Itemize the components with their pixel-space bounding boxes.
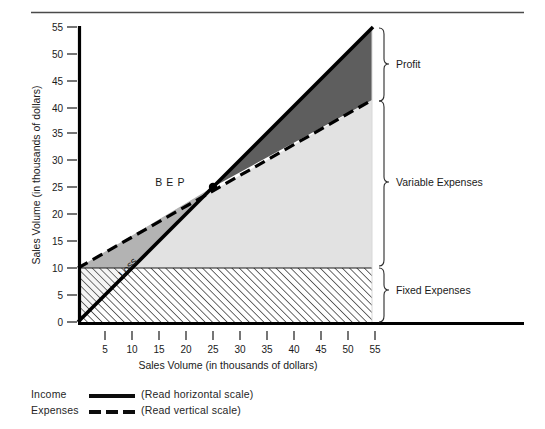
y-tick-label: 10 [52, 263, 64, 274]
x-tick-label: 15 [153, 344, 165, 355]
y-tick-label: 40 [52, 103, 64, 114]
x-tick-label: 25 [207, 344, 219, 355]
y-tick-label: 50 [52, 49, 64, 60]
x-tick-label: 5 [102, 344, 108, 355]
y-tick-label: 15 [52, 236, 64, 247]
legend-label-expenses: Expenses [31, 404, 79, 416]
bep-marker [209, 183, 217, 191]
x-tick-label: 10 [126, 344, 138, 355]
legend-swatch-expenses-dashed-line [89, 410, 135, 414]
y-tick-label: 20 [52, 209, 64, 220]
y-tick-label: 45 [52, 76, 64, 87]
y-tick-label: 5 [57, 290, 63, 301]
legend-note-income: (Read horizontal scale) [141, 388, 254, 400]
y-tick-label: 30 [52, 155, 64, 166]
legend-swatch-income-solid-line [89, 394, 135, 398]
x-axis-title: Sales Volume (in thousands of dollars) [138, 359, 317, 371]
legend-label-income: Income [31, 388, 67, 400]
y-axis-title: Sales Volume (in thousands of dollars) [30, 85, 42, 264]
y-tick-label: 55 [52, 22, 64, 33]
x-tick-label: 45 [315, 344, 327, 355]
x-tick-label: 35 [261, 344, 273, 355]
y-tick-label: 0 [57, 317, 63, 328]
x-tick-label: 50 [342, 344, 354, 355]
legend-row-income: Income (Read horizontal scale) [31, 388, 291, 402]
y-tick-label: 25 [52, 182, 64, 193]
break-even-chart: B E P Loss 55 50 45 40 35 30 25 20 15 10… [0, 0, 545, 429]
legend-note-expenses: (Read vertical scale) [141, 404, 241, 416]
x-tick-label: 30 [234, 344, 246, 355]
x-tick-label: 55 [369, 344, 381, 355]
x-tick-label: 20 [180, 344, 192, 355]
brace-label-fixed-expenses: Fixed Expenses [396, 284, 471, 296]
brace-label-variable-expenses: Variable Expenses [396, 176, 483, 188]
y-tick-label: 35 [52, 128, 64, 139]
x-tick-label: 40 [288, 344, 300, 355]
brace-label-profit: Profit [396, 58, 421, 70]
legend-row-expenses: Expenses (Read vertical scale) [31, 404, 291, 418]
bep-label: B E P [155, 176, 185, 188]
